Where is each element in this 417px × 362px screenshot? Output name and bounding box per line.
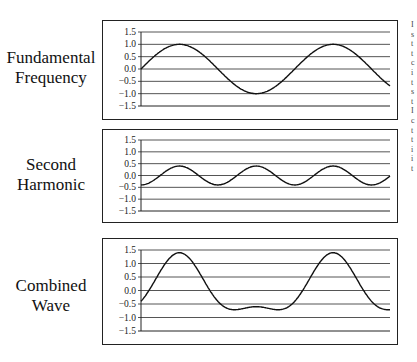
y-tick-label: 0.5 [124, 52, 136, 62]
y-tick-label: 1.0 [124, 259, 136, 269]
plot-1: 1.51.00.50.0−0.5−1.0−1.5 [119, 135, 390, 216]
y-tick-label: 0.5 [124, 272, 136, 282]
plot-0: 1.51.00.50.0−0.5−1.0−1.5 [119, 27, 390, 111]
y-tick-label: −1.5 [119, 206, 136, 216]
y-tick-label: −1.5 [119, 326, 136, 336]
y-tick-label: 1.5 [124, 135, 136, 145]
waveform-line [141, 253, 390, 310]
y-tick-label: 0.0 [124, 171, 136, 181]
plot-2: 1.51.00.50.0−0.5−1.0−1.5 [119, 245, 390, 336]
y-tick-label: −0.5 [119, 299, 136, 309]
y-tick-label: −0.5 [119, 182, 136, 192]
y-tick-label: −1.5 [119, 101, 136, 111]
y-tick-label: 1.5 [124, 245, 136, 255]
y-tick-label: −0.5 [119, 76, 136, 86]
cropped-side-text: I s t t c i t s t I c t t i i t [411, 20, 417, 174]
waveform-plots: 1.51.00.50.0−0.5−1.0−1.51.51.00.50.0−0.5… [0, 0, 417, 362]
y-tick-label: 0.0 [124, 64, 136, 74]
y-tick-label: 0.5 [124, 159, 136, 169]
y-tick-label: 1.0 [124, 39, 136, 49]
y-tick-label: −1.0 [119, 194, 136, 204]
y-tick-label: −1.0 [119, 313, 136, 323]
y-tick-label: 0.0 [124, 286, 136, 296]
y-tick-label: 1.0 [124, 147, 136, 157]
y-tick-label: 1.5 [124, 27, 136, 37]
y-tick-label: −1.0 [119, 89, 136, 99]
